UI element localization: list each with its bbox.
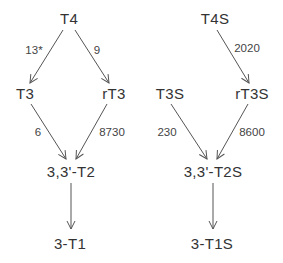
rate-t4s-rt3s: 2020 [234, 43, 260, 55]
rate-t4-t3: 13* [25, 45, 42, 57]
rate-t3-t2: 6 [35, 127, 41, 139]
node-t1: 3-T1 [54, 236, 86, 251]
arrow-t4s-to-rt3s [217, 30, 249, 83]
rate-t4-rt3: 9 [94, 45, 100, 57]
node-rt3s: rT3S [235, 86, 269, 101]
arrow-t4-to-rt3 [75, 30, 109, 83]
node-t3: T3 [16, 86, 34, 101]
rate-rt3-t2: 8730 [99, 127, 125, 139]
node-t4s: T4S [201, 11, 229, 26]
rate-t3s-t2s: 230 [157, 127, 176, 139]
node-rt3: rT3 [102, 86, 125, 101]
node-t3s: T3S [156, 86, 184, 101]
rate-rt3s-t2s: 8600 [239, 127, 265, 139]
node-t4: T4 [60, 11, 78, 26]
node-t2s: 3,3'-T2S [184, 164, 243, 179]
node-t1s: 3-T1S [191, 236, 233, 251]
node-t2: 3,3'-T2 [47, 164, 95, 179]
